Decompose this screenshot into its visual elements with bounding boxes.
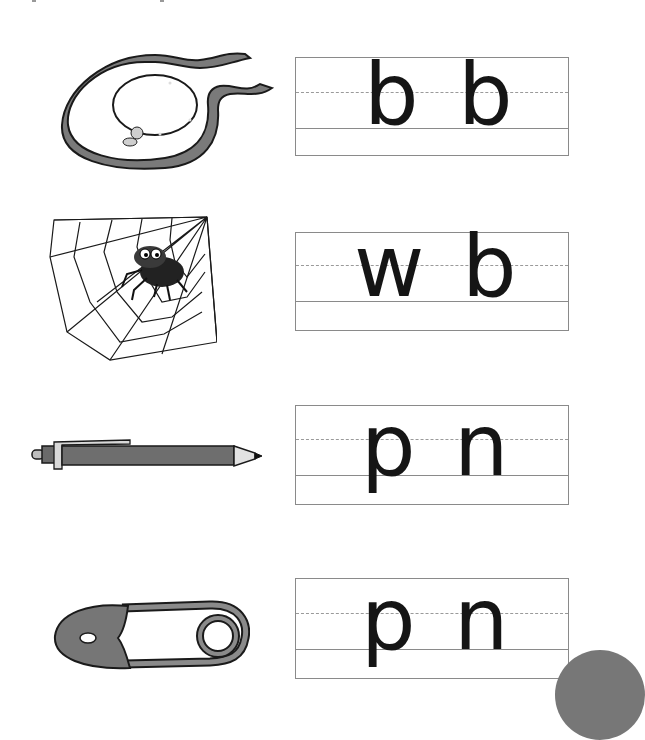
midline-dashed (296, 92, 568, 93)
midline-dashed (296, 265, 568, 266)
spider-web-icon (42, 212, 217, 362)
letter: b (458, 51, 513, 137)
baseline (296, 649, 568, 650)
scan-mark (32, 0, 36, 2)
writing-box-3[interactable]: p n (295, 405, 569, 505)
letter: w (354, 223, 424, 309)
writing-box-2[interactable]: w b (295, 232, 569, 331)
letter: b (462, 223, 517, 309)
letter: n (454, 402, 509, 488)
scan-mark (160, 0, 164, 2)
baseline (296, 301, 568, 302)
letter: n (454, 576, 509, 662)
bib-icon (60, 50, 275, 170)
letter: p (361, 402, 416, 488)
page-corner-tab (555, 650, 645, 740)
safety-pin-icon (50, 598, 250, 670)
letter: b (364, 51, 419, 137)
writing-box-4[interactable]: p n (295, 578, 569, 679)
baseline (296, 128, 568, 129)
pen-icon (30, 432, 265, 472)
letter: p (361, 576, 416, 662)
baseline (296, 475, 568, 476)
midline-dashed (296, 439, 568, 440)
writing-box-1[interactable]: b b (295, 57, 569, 156)
midline-dashed (296, 613, 568, 614)
